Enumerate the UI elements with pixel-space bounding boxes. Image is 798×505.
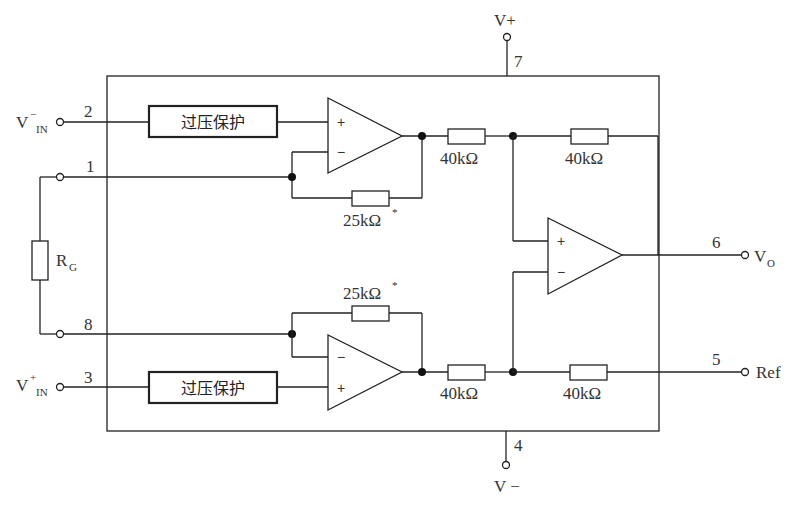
resistor-40k-bottom-in	[448, 365, 485, 380]
r-fb-top-label: 25kΩ	[343, 211, 381, 230]
vplus-label: V+	[494, 11, 516, 30]
svg-text:*: *	[392, 206, 398, 218]
opamp-a3	[548, 218, 622, 294]
svg-text:40kΩ: 40kΩ	[565, 149, 603, 168]
svg-text:过压保护: 过压保护	[181, 113, 245, 132]
pin8-number: 8	[84, 315, 93, 334]
resistor-25k-bottom	[352, 306, 389, 321]
pin3-number: 3	[84, 368, 93, 387]
svg-text:40kΩ: 40kΩ	[440, 149, 478, 168]
pin3-terminal	[57, 384, 64, 391]
svg-text:过压保护: 过压保护	[181, 379, 245, 398]
opamp-a1	[328, 98, 402, 173]
rg-label: R	[56, 251, 68, 270]
svg-text:+: +	[337, 114, 345, 130]
schematic: V+ 7 V − 4 V − IN 2 过压保护 + − 25kΩ * 1 R …	[0, 0, 798, 505]
svg-text:IN: IN	[36, 386, 48, 398]
pin5-terminal	[742, 369, 749, 376]
pin5-number: 5	[712, 350, 721, 369]
svg-text:−: −	[557, 264, 565, 280]
svg-text:+: +	[337, 380, 345, 396]
resistor-40k-top-in	[448, 129, 485, 144]
vplus-terminal	[504, 34, 511, 41]
svg-text:*: *	[392, 279, 398, 291]
resistor-rg	[32, 241, 48, 280]
vin-minus-label: V	[16, 113, 29, 132]
vo-label: V	[754, 247, 767, 266]
pin2-terminal	[57, 119, 64, 126]
resistor-25k-top	[352, 191, 389, 206]
vin-plus-label: V	[16, 376, 29, 395]
pin7-number: 7	[514, 52, 523, 71]
svg-text:IN: IN	[36, 123, 48, 135]
svg-text:−: −	[337, 144, 345, 160]
svg-text:+: +	[557, 233, 565, 249]
vminus-label: V −	[494, 477, 520, 496]
opamp-a2	[328, 335, 402, 410]
vminus-terminal	[503, 462, 510, 469]
pin8-terminal	[57, 331, 64, 338]
pin6-number: 6	[712, 233, 721, 252]
pin2-number: 2	[84, 102, 93, 121]
pin6-terminal	[742, 252, 749, 259]
resistor-40k-feedback	[571, 129, 608, 144]
svg-text:O: O	[767, 257, 775, 269]
svg-text:−: −	[30, 108, 36, 120]
pin1-terminal	[57, 174, 64, 181]
resistor-40k-ref	[570, 365, 607, 380]
pin1-number: 1	[86, 157, 95, 176]
svg-text:40kΩ: 40kΩ	[563, 384, 601, 403]
r-fb-bottom-label: 25kΩ	[343, 284, 381, 303]
svg-text:40kΩ: 40kΩ	[440, 384, 478, 403]
pin4-number: 4	[514, 436, 523, 455]
svg-text:−: −	[337, 349, 345, 365]
ref-label: Ref	[756, 363, 781, 382]
svg-text:+: +	[30, 371, 36, 383]
svg-text:G: G	[69, 261, 77, 273]
